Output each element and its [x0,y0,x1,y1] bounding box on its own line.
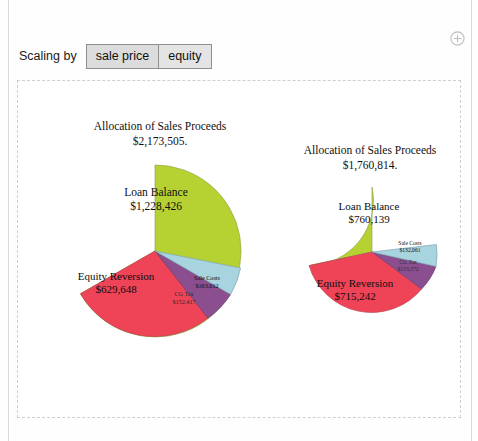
scaling-segmented-control: sale price equity [86,44,212,69]
chart-left: Allocation of Sales Proceeds $2,173,505.… [55,119,265,339]
chart-left-title-block: Allocation of Sales Proceeds $2,173,505. [55,119,265,149]
app-root: Scaling by sale price equity Allocation … [0,0,478,441]
scaling-option-sale-price[interactable]: sale price [87,45,159,68]
charts-panel: Allocation of Sales Proceeds $2,173,505.… [17,80,461,418]
chart-right-pie: Loan Balance $760,139 Equity Reversion $… [305,185,439,319]
right-edge-rule [471,0,472,441]
scaling-by-label: Scaling by [19,44,86,69]
chart-right: Allocation of Sales Proceeds $1,760,814.… [280,143,460,319]
chart-right-title-block: Allocation of Sales Proceeds $1,760,814. [280,143,460,173]
chart-right-total: $1,760,814. [280,158,460,173]
chart-left-title: Allocation of Sales Proceeds [94,120,227,132]
chart-left-total: $2,173,505. [55,134,265,149]
chart-left-pie: Loan Balance $1,228,426 Equity Reversion… [67,163,243,339]
left-edge-rule [8,0,9,441]
chart-right-title: Allocation of Sales Proceeds [304,144,437,156]
plus-circle-icon[interactable] [450,31,465,46]
scaling-option-equity[interactable]: equity [158,45,210,68]
scaling-control-bar: Scaling by sale price equity [19,44,212,69]
